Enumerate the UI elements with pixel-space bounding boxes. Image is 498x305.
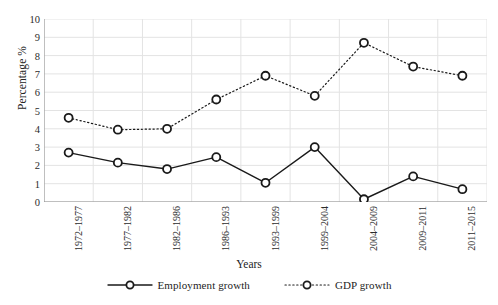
x-tick-label: 1986–1993 — [220, 206, 231, 266]
y-tick-label: 7 — [22, 68, 40, 79]
y-tick-label: 6 — [22, 87, 40, 98]
x-tick-label: 1977–1982 — [122, 206, 133, 266]
y-tick-label: 1 — [22, 178, 40, 189]
y-tick-label: 2 — [22, 160, 40, 171]
data-point — [458, 72, 466, 80]
data-point — [262, 179, 270, 187]
data-point — [458, 185, 466, 193]
data-point — [262, 72, 270, 80]
data-point — [360, 195, 368, 202]
data-point — [65, 114, 73, 122]
data-point — [163, 165, 171, 173]
y-tick-label: 0 — [22, 197, 40, 208]
legend-item[interactable]: Employment growth — [107, 279, 250, 291]
data-point — [114, 126, 122, 134]
legend-marker-icon — [284, 279, 330, 291]
x-tick-label: 1993–1999 — [270, 206, 281, 266]
series-line-0 — [69, 147, 463, 199]
chart-container: Percentage % 012345678910 1972–19771977–… — [0, 0, 498, 305]
x-tick-label: 1999–2004 — [319, 206, 330, 266]
data-point — [311, 143, 319, 151]
legend-label: GDP growth — [335, 279, 392, 291]
y-tick-label: 5 — [22, 105, 40, 116]
x-tick-label: 2011–2015 — [466, 206, 477, 266]
data-point — [114, 159, 122, 167]
data-point — [65, 149, 73, 157]
data-point — [409, 172, 417, 180]
y-tick-label: 9 — [22, 32, 40, 43]
data-point — [360, 39, 368, 47]
legend-label: Employment growth — [158, 279, 250, 291]
plot-area — [44, 19, 487, 202]
x-tick-label: 2009–2011 — [417, 206, 428, 266]
x-tick-label: 2004–2009 — [368, 206, 379, 266]
data-point — [212, 153, 220, 161]
y-tick-label: 3 — [22, 142, 40, 153]
legend-point-icon — [126, 281, 133, 288]
data-point — [311, 92, 319, 100]
legend-point-icon — [303, 281, 310, 288]
x-axis-tick-labels: 1972–19771977–19821982–19861986–19931993… — [44, 204, 487, 264]
x-tick-label: 1982–1986 — [171, 206, 182, 266]
data-point — [409, 63, 417, 71]
chart-svg — [44, 19, 487, 202]
data-point — [163, 125, 171, 133]
legend-item[interactable]: GDP growth — [284, 279, 392, 291]
chart-legend: Employment growthGDP growth — [0, 279, 498, 291]
y-tick-label: 10 — [22, 14, 40, 25]
y-tick-label: 8 — [22, 50, 40, 61]
data-point — [212, 96, 220, 104]
legend-marker-icon — [107, 279, 153, 291]
y-tick-label: 4 — [22, 123, 40, 134]
x-axis-title: Years — [0, 258, 498, 270]
x-tick-label: 1972–1977 — [73, 206, 84, 266]
